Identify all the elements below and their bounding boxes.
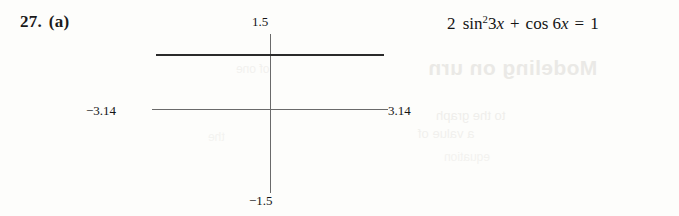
exercise-part-letter: (a) <box>49 12 69 31</box>
plotted-curve <box>156 54 384 56</box>
graphing-calculator-screen <box>157 35 383 192</box>
exercise-number: 27. <box>20 12 42 31</box>
equation-sin-arg-variable: x <box>496 14 504 33</box>
equation-expression: 2 sin23x+cos 6x=1 <box>447 14 599 34</box>
bleed-line-1-text: to the graph <box>436 108 505 123</box>
equation-cos-arg-coefficient: 6 <box>553 14 562 33</box>
figure-page: Modeling on urn to the graph a value of … <box>0 0 679 216</box>
equation-right-hand-side: 1 <box>590 14 599 33</box>
equation-sin-function: sin <box>463 14 483 33</box>
bleed-heading-text: Modeling on urn <box>428 56 597 80</box>
exercise-label: 27.(a) <box>20 12 69 32</box>
equation-cos-function: cos <box>526 14 549 33</box>
equation-cos-arg-variable: x <box>561 14 569 33</box>
bleed-line-2-text: a value of <box>418 126 474 141</box>
y-min-label: −1.5 <box>249 193 273 209</box>
equation-plus-operator: + <box>510 14 520 33</box>
x-min-label: −3.14 <box>86 103 116 119</box>
x-max-label: 3.14 <box>388 103 411 119</box>
equation-coefficient: 2 <box>447 14 456 33</box>
bleed-line-3-text: equation <box>444 150 490 164</box>
equation-equals-operator: = <box>575 14 585 33</box>
y-axis-line <box>270 34 271 193</box>
y-max-label: 1.5 <box>252 14 268 30</box>
